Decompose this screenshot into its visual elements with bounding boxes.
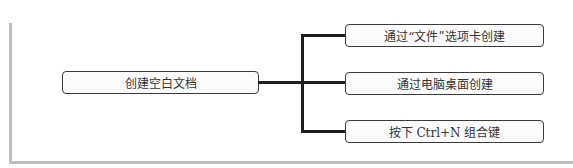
root-node-label: 创建空白文档	[125, 74, 197, 91]
root-node: 创建空白文档	[62, 71, 259, 94]
root-connector	[258, 81, 303, 84]
branch-connector-2	[301, 81, 346, 84]
branch-connector-3	[301, 130, 346, 133]
branch-node-label: 按下 Ctrl+N 组合键	[389, 123, 501, 140]
frame-left-border	[9, 23, 12, 164]
branch-node-file-tab: 通过“文件”选项卡创建	[345, 24, 544, 47]
frame-bottom-border	[9, 161, 573, 164]
branch-connector-1	[301, 34, 346, 37]
branch-node-label: 通过电脑桌面创建	[397, 75, 493, 92]
branch-node-desktop: 通过电脑桌面创建	[345, 72, 544, 95]
branch-node-ctrl-n: 按下 Ctrl+N 组合键	[345, 120, 544, 143]
branch-node-label: 通过“文件”选项卡创建	[384, 27, 504, 44]
